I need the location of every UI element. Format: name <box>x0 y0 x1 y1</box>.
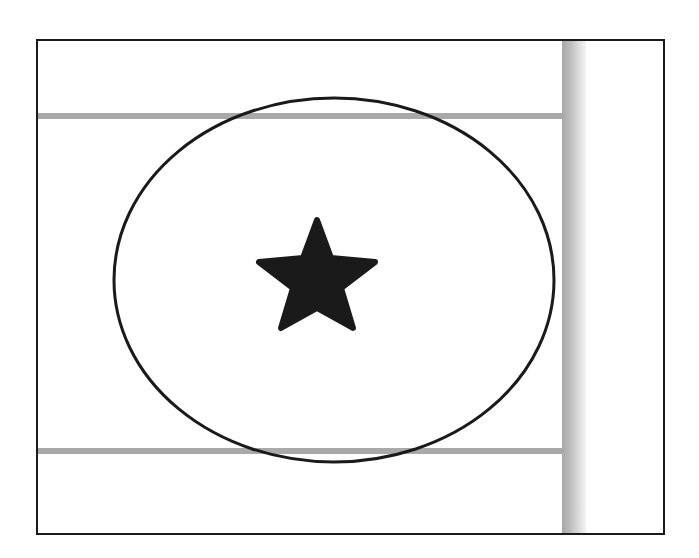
diagram-shapes <box>0 0 699 558</box>
star-icon <box>259 220 375 328</box>
